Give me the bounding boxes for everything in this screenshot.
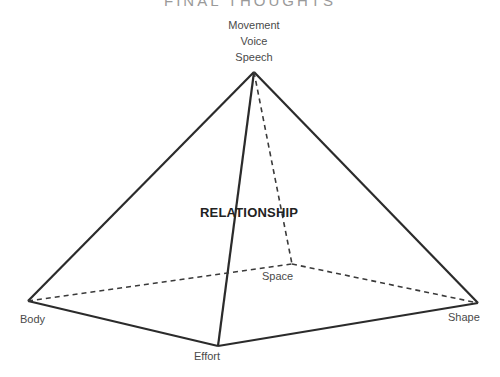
- apex-label-movement: Movement: [204, 17, 304, 33]
- vertex-label-space: Space: [262, 270, 293, 282]
- apex-label-voice: Voice: [204, 33, 304, 49]
- edge-apex-shape: [254, 72, 478, 303]
- center-label: RELATIONSHIP: [200, 205, 298, 220]
- edge-body-effort: [28, 301, 218, 346]
- vertex-label-effort: Effort: [194, 350, 220, 362]
- edge-effort-shape: [218, 303, 478, 346]
- vertex-label-shape: Shape: [448, 311, 480, 323]
- vertex-label-body: Body: [20, 313, 45, 325]
- hidden-edge-space-shape: [292, 264, 478, 303]
- hidden-edge-apex-space: [254, 72, 292, 264]
- apex-label-speech: Speech: [204, 49, 304, 65]
- apex-labels: Movement Voice Speech: [204, 17, 304, 65]
- hidden-edge-body-space: [28, 264, 292, 301]
- edge-apex-body: [28, 72, 254, 301]
